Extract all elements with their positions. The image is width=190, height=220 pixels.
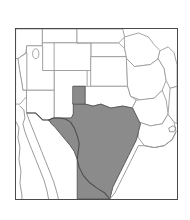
state-arizona <box>27 90 55 120</box>
state-texas-panhandle <box>73 86 85 104</box>
state-kansas <box>91 57 128 87</box>
great-salt-lake <box>33 49 39 59</box>
state-south-dakota <box>77 29 124 43</box>
state-montana <box>43 29 78 43</box>
state-colorado <box>55 43 92 71</box>
mexico-west-coast <box>16 122 22 199</box>
map-frame <box>15 28 178 200</box>
map-figure <box>0 0 190 220</box>
water-bodies-layer <box>33 49 39 59</box>
map-graphic <box>16 29 177 199</box>
